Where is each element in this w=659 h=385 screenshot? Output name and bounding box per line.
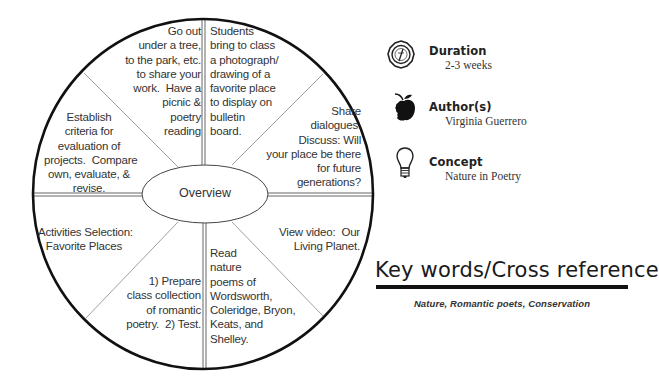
segment-upper-right: Share dialogues. Discuss: Will your plac…	[266, 104, 361, 190]
segment-bottom-left: 1) Prepare class collection of romantic …	[126, 274, 201, 331]
authors-title: Author(s)	[429, 100, 492, 114]
compass-icon	[386, 39, 416, 70]
duration-title: Duration	[429, 44, 487, 58]
keywords-values: Nature, Romantic poets, Conservation	[376, 298, 628, 309]
keywords-underline	[376, 285, 628, 289]
overview-label: Overview	[142, 186, 268, 200]
segment-upper-left: Establish criteria for evaluation of pro…	[44, 110, 134, 196]
segment-top-left: Go out under a tree, to the park, etc. t…	[125, 24, 201, 138]
concept-title: Concept	[429, 155, 483, 169]
segment-lower-left: Activities Selection: Favorite Places	[38, 225, 130, 254]
lightbulb-icon	[395, 146, 415, 180]
duration-value: 2-3 weeks	[445, 59, 492, 71]
concept-value: Nature in Poetry	[445, 170, 521, 182]
authors-value: Virginia Guerrero	[445, 115, 527, 127]
apple-icon	[392, 92, 416, 122]
keywords-heading: Key words/Cross reference	[375, 258, 659, 282]
segment-bottom-right: Read nature poems of Wordsworth, Colerid…	[210, 246, 295, 346]
